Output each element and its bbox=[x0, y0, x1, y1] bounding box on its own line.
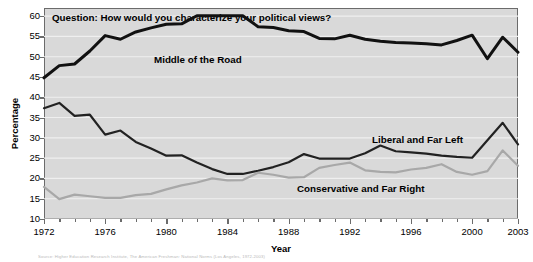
x-tick-mark-minor bbox=[426, 219, 427, 222]
x-tick-mark-major bbox=[472, 219, 473, 224]
data-lines bbox=[44, 8, 518, 219]
x-tick-mark-minor bbox=[182, 219, 183, 222]
x-tick-mark-major bbox=[518, 219, 519, 224]
series-label-liberal-and-far-left: Liberal and Far Left bbox=[372, 134, 463, 145]
series-line-middle-of-the-road bbox=[44, 16, 518, 78]
x-tick-label: 1984 bbox=[217, 227, 238, 237]
x-tick-mark-minor bbox=[396, 219, 397, 222]
x-tick-mark-minor bbox=[120, 219, 121, 222]
x-tick-label: 2000 bbox=[462, 227, 483, 237]
x-tick-mark-minor bbox=[151, 219, 152, 222]
x-tick-mark-major bbox=[166, 219, 167, 224]
x-tick-mark-minor bbox=[136, 219, 137, 222]
x-tick-label: 1980 bbox=[156, 227, 177, 237]
x-tick-mark-major bbox=[350, 219, 351, 224]
x-tick-mark-minor bbox=[75, 219, 76, 222]
series-label-conservative-and-far-right: Conservative and Far Right bbox=[297, 183, 424, 194]
x-tick-mark-minor bbox=[442, 219, 443, 222]
x-tick-mark-minor bbox=[304, 219, 305, 222]
series-line-conservative-and-far-right bbox=[44, 150, 518, 199]
x-tick-mark-major bbox=[44, 219, 45, 224]
x-tick-label: 1996 bbox=[400, 227, 421, 237]
x-tick-mark-minor bbox=[457, 219, 458, 222]
x-tick-mark-minor bbox=[59, 219, 60, 222]
x-tick-label: 1992 bbox=[339, 227, 360, 237]
x-tick-mark-minor bbox=[273, 219, 274, 222]
x-tick-label: 2003 bbox=[507, 227, 528, 237]
x-tick-mark-minor bbox=[380, 219, 381, 222]
source-note: Source: Higher Education Research Instit… bbox=[38, 254, 530, 259]
figure: Percentage 6055504540353025201510 197219… bbox=[0, 0, 533, 262]
x-tick-mark-minor bbox=[258, 219, 259, 222]
x-tick-label: 1976 bbox=[95, 227, 116, 237]
x-tick-mark-major bbox=[411, 219, 412, 224]
x-tick-mark-minor bbox=[365, 219, 366, 222]
x-tick-mark-major bbox=[289, 219, 290, 224]
x-tick-mark-major bbox=[227, 219, 228, 224]
x-tick-mark-minor bbox=[319, 219, 320, 222]
x-tick-mark-minor bbox=[487, 219, 488, 222]
x-tick-mark-minor bbox=[335, 219, 336, 222]
x-tick-mark-minor bbox=[212, 219, 213, 222]
x-tick-mark-minor bbox=[197, 219, 198, 222]
x-tick-mark-minor bbox=[243, 219, 244, 222]
x-tick-mark-minor bbox=[503, 219, 504, 222]
x-tick-mark-major bbox=[105, 219, 106, 224]
series-label-middle-of-the-road: Middle of the Road bbox=[154, 54, 242, 65]
x-tick-label: 1972 bbox=[33, 227, 54, 237]
x-axis-label: Year bbox=[271, 243, 291, 254]
x-tick-mark-minor bbox=[90, 219, 91, 222]
x-tick-label: 1988 bbox=[278, 227, 299, 237]
